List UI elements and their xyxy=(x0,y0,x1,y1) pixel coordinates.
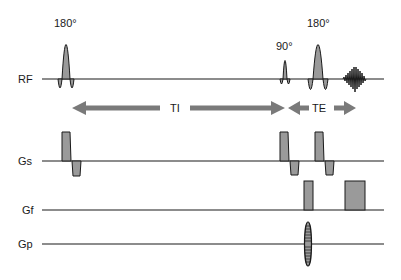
inversion-pulse xyxy=(58,45,74,89)
refocusing-pulse-label: 180° xyxy=(307,17,330,29)
te-interval-label: TE xyxy=(312,102,326,114)
gp-phase-encode-table xyxy=(305,222,312,266)
gf-readout-lobe xyxy=(345,181,365,210)
channel-label-gp: Gp xyxy=(18,238,33,250)
excitation-pulse-label: 90° xyxy=(276,40,293,52)
echo-signal xyxy=(343,67,366,92)
ti-interval-label: TI xyxy=(170,102,180,114)
pulse-sequence-diagram: RF Gs Gf Gp 180° 90° 180° TI TE xyxy=(0,0,401,280)
gs-gradient-2 xyxy=(280,132,299,175)
gs-gradient-1 xyxy=(62,132,81,176)
excitation-pulse xyxy=(280,61,290,85)
gs-gradient-3 xyxy=(315,132,334,175)
inversion-pulse-label: 180° xyxy=(54,17,77,29)
gf-dephase-lobe xyxy=(304,181,313,210)
channel-label-gf: Gf xyxy=(22,204,35,216)
channel-label-rf: RF xyxy=(18,73,33,85)
channel-label-gs: Gs xyxy=(18,155,33,167)
refocusing-pulse xyxy=(308,45,328,90)
